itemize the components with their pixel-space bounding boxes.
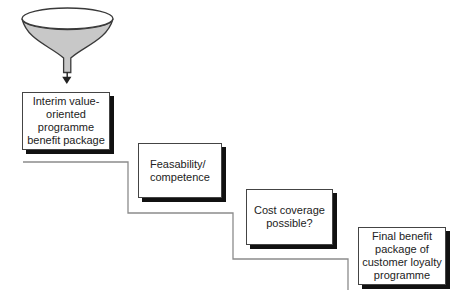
stage-box-interim-benefit-package: Interim value- oriented programme benefi… — [22, 92, 110, 150]
stair-step-diagram: Interim value- oriented programme benefi… — [0, 0, 472, 305]
stage-box-label: Feasability/ competence — [150, 158, 210, 184]
stage-box-final-benefit-package: Final benefit package of customer loyalt… — [358, 227, 446, 285]
funnel-icon — [22, 8, 113, 84]
stage-box-feasability-competence: Feasability/ competence — [138, 143, 222, 198]
stage-box-label: Final benefit package of customer loyalt… — [362, 230, 441, 282]
stage-box-label: Interim value- oriented programme benefi… — [27, 95, 105, 147]
stage-box-label: Cost coverage possible? — [254, 204, 325, 230]
arrow-down-icon — [62, 73, 71, 85]
stage-box-cost-coverage: Cost coverage possible? — [246, 189, 333, 245]
funnel-mouth — [22, 8, 113, 29]
